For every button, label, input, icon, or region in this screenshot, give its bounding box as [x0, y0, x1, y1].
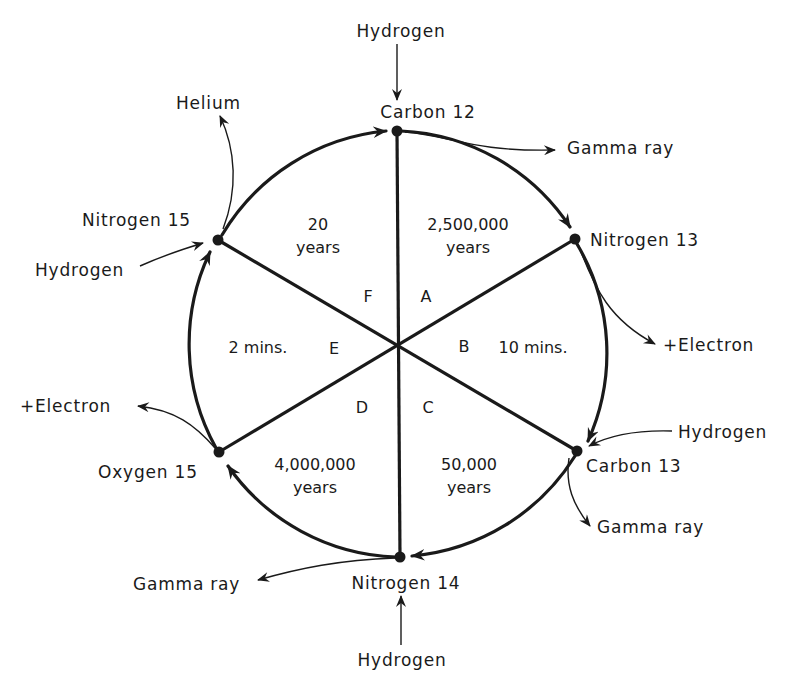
duration-a-line1: 2,500,000: [427, 215, 508, 234]
duration-f-line1: 20: [308, 215, 328, 234]
sector-letter-d: D: [356, 398, 368, 417]
arrow-helium-out-n15: [220, 116, 233, 229]
duration-d-line1: 4,000,000: [274, 455, 355, 474]
arrow-hydrogen-in-c13: [589, 431, 672, 446]
duration-d-line2: years: [293, 478, 337, 497]
duration-b: 10 mins.: [498, 338, 567, 357]
sector-letter-f: F: [363, 287, 372, 306]
label-carbon-13: Carbon 13: [586, 456, 681, 476]
cno-cycle-diagram: Carbon 12 Nitrogen 13 Carbon 13 Nitrogen…: [0, 0, 795, 684]
label-helium: Helium: [176, 93, 241, 113]
label-nitrogen-14: Nitrogen 14: [352, 573, 461, 593]
label-carbon-12: Carbon 12: [380, 102, 475, 122]
label-hydrogen-c13: Hydrogen: [678, 422, 767, 442]
label-gamma-ray-n14: Gamma ray: [133, 574, 240, 594]
label-hydrogen-n15: Hydrogen: [35, 260, 124, 280]
duration-c-line1: 50,000: [441, 455, 497, 474]
node-dot-nitrogen-13: [570, 234, 581, 245]
arc-n15-to-c12: [222, 131, 386, 235]
node-dot-nitrogen-14: [395, 552, 406, 563]
arc-c12-to-n13: [401, 131, 570, 227]
node-dot-oxygen-15: [214, 447, 225, 458]
node-dot-carbon-13: [572, 446, 583, 457]
arrow-electron-out-n13: [578, 244, 655, 344]
label-electron-o15: +Electron: [20, 396, 111, 416]
arrow-gamma-out-c12: [405, 132, 555, 150]
label-nitrogen-15: Nitrogen 15: [82, 210, 191, 230]
label-hydrogen-bottom: Hydrogen: [357, 650, 446, 670]
label-hydrogen-top: Hydrogen: [356, 21, 445, 41]
arc-o15-to-n15: [189, 252, 216, 448]
label-electron-n13: +Electron: [663, 335, 754, 355]
label-oxygen-15: Oxygen 15: [98, 462, 198, 482]
node-dot-carbon-12: [392, 126, 403, 137]
arrow-electron-out-o15: [138, 406, 215, 448]
duration-c-line2: years: [447, 478, 491, 497]
arc-n13-to-c13: [577, 244, 607, 441]
duration-e: 2 mins.: [229, 338, 288, 357]
duration-f-line2: years: [296, 238, 340, 257]
node-dot-nitrogen-15: [213, 235, 224, 246]
duration-a-line2: years: [446, 238, 490, 257]
sector-letter-b: B: [459, 337, 470, 356]
label-gamma-ray-c13: Gamma ray: [597, 517, 704, 537]
sector-letter-c: C: [422, 398, 433, 417]
arrow-hydrogen-in-n15: [140, 243, 203, 266]
sector-letter-a: A: [421, 287, 432, 306]
label-nitrogen-13: Nitrogen 13: [590, 230, 699, 250]
sector-letter-e: E: [329, 339, 339, 358]
label-gamma-ray-c12: Gamma ray: [567, 138, 674, 158]
